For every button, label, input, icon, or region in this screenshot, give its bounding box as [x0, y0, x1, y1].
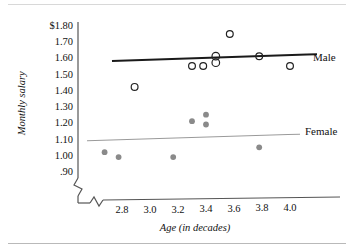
- male-point: [131, 84, 138, 91]
- y-tick-label: 1.10: [25, 135, 73, 146]
- y-tick-label: $1.80: [25, 21, 73, 32]
- male-point: [200, 63, 207, 70]
- y-tick-label: 1.00: [25, 151, 73, 162]
- x-tick-label: 4.0: [275, 203, 305, 214]
- scatter-plot-figure: $1.80 1.70 1.60 1.50 1.40 1.30 1.20 1.10…: [0, 0, 354, 248]
- y-axis-break-icon: [74, 178, 82, 196]
- x-axis-line: [103, 197, 340, 200]
- x-tick-label: 3.0: [135, 205, 165, 216]
- male-point: [287, 63, 294, 70]
- y-tick-label: 1.30: [25, 102, 73, 113]
- female-point: [203, 122, 209, 128]
- female-point: [102, 149, 108, 155]
- y-tick-label: .90: [25, 167, 73, 178]
- x-axis-break-icon: [90, 197, 103, 206]
- male-point: [189, 63, 196, 70]
- y-tick-label: 1.40: [25, 86, 73, 97]
- male-fit-line: [112, 55, 307, 62]
- female-fit-line: [87, 135, 288, 141]
- x-axis-title: Age (in decades): [130, 223, 260, 234]
- x-tick-label: 3.2: [163, 205, 193, 216]
- bottom-divider: [8, 243, 346, 244]
- y-axis-title: Monthly salary: [17, 58, 28, 148]
- x-tick-label: 3.6: [219, 204, 249, 215]
- female-point: [116, 154, 122, 160]
- female-point: [170, 154, 176, 160]
- female-point: [189, 118, 195, 124]
- y-tick-label: 1.60: [25, 53, 73, 64]
- male-point: [226, 31, 233, 38]
- y-tick-label: 1.50: [25, 70, 73, 81]
- x-tick-label: 2.8: [107, 205, 137, 216]
- female-point: [203, 112, 209, 118]
- x-tick-label: 3.8: [247, 203, 277, 214]
- x-tick-label: 3.4: [191, 204, 221, 215]
- female-series-label: Female: [305, 126, 337, 137]
- y-tick-label: 1.70: [25, 37, 73, 48]
- y-tick-label: 1.20: [25, 118, 73, 129]
- male-series-label: Male: [313, 52, 336, 63]
- female-point: [256, 144, 262, 150]
